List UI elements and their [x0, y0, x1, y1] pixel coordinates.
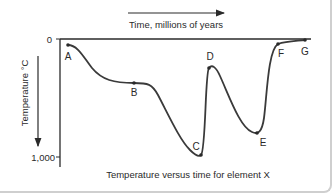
point-d-marker: [207, 66, 211, 70]
point-e-label: E: [260, 137, 267, 148]
point-f-marker: [276, 42, 280, 46]
point-d-label: D: [206, 51, 213, 62]
point-a-label: A: [65, 51, 72, 62]
point-a-marker: [66, 43, 70, 47]
time-axis-label: Time, millions of years: [129, 19, 223, 30]
temperature-chart: Time, millions of years 0 1,000 Temperat…: [0, 0, 336, 196]
point-b-label: B: [131, 87, 138, 98]
point-c-marker: [199, 153, 203, 157]
point-f-label: F: [278, 48, 284, 59]
point-g-marker: [303, 38, 307, 42]
y-tick-thousand: 1,000: [31, 152, 55, 163]
point-c-label: C: [192, 141, 199, 152]
temperature-curve: [68, 40, 305, 156]
chart-caption: Temperature versus time for element X: [106, 169, 270, 180]
point-e-marker: [255, 131, 259, 135]
point-g-label: G: [301, 46, 309, 57]
point-b-marker: [132, 81, 136, 85]
y-tick-zero: 0: [47, 34, 52, 45]
temperature-axis-label: Temperature °C: [19, 60, 30, 127]
